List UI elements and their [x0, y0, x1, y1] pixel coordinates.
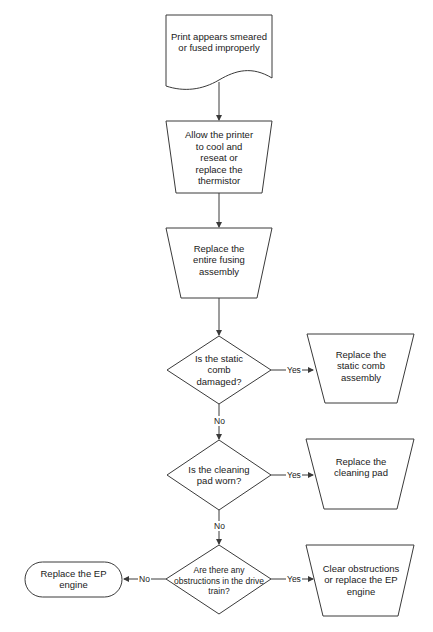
decision2-no-label: No	[213, 521, 226, 531]
flowchart-canvas	[0, 0, 433, 632]
step2-text: Replace the entire fusing assembly	[188, 240, 250, 280]
decision1-text: Is the static comb damaged?	[188, 356, 250, 384]
decision2-text: Is the cleaning pad worn?	[182, 461, 256, 489]
decision3-text: Are there any obstructions in the drive …	[172, 563, 266, 599]
decision3-no-label: No	[138, 574, 151, 584]
terminal-text: Replace the EP engine	[27, 566, 120, 592]
action1-text: Replace the static comb assembly	[326, 346, 396, 386]
decision2-yes-label: Yes	[286, 470, 302, 480]
action2-text: Replace the cleaning pad	[324, 452, 398, 482]
decision3-yes-label: Yes	[286, 574, 302, 584]
start-text: Print appears smeared or fused improperl…	[168, 28, 270, 56]
step1-text: Allow the printer to cool and reseat or …	[184, 127, 254, 189]
decision1-no-label: No	[213, 416, 226, 426]
decision1-yes-label: Yes	[286, 365, 302, 375]
action3-text: Clear obstructions or replace the EP eng…	[322, 556, 400, 604]
